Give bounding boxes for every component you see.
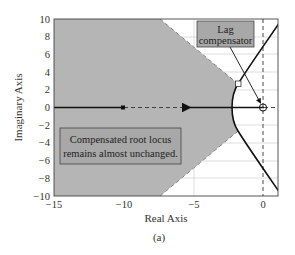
- svg-text:−6: −6: [39, 155, 50, 166]
- svg-text:0: 0: [260, 199, 265, 210]
- svg-text:2: 2: [45, 84, 50, 95]
- svg-text:−8: −8: [39, 173, 50, 184]
- y-axis-label: Imaginary Axis: [12, 73, 24, 141]
- svg-text:−5: −5: [188, 199, 199, 210]
- svg-text:Compensated root locus: Compensated root locus: [70, 134, 171, 145]
- x-axis-label: Real Axis: [144, 212, 187, 224]
- svg-text:Lag: Lag: [217, 24, 234, 35]
- y-axis-ticks: 10 8 6 4 2 0 −2 −4 −6 −8 −10: [34, 14, 51, 202]
- svg-text:−2: −2: [39, 120, 50, 131]
- root-locus-chart: Lag compensator Compensated root locus r…: [0, 0, 295, 255]
- svg-text:−15: −15: [46, 199, 62, 210]
- svg-text:−4: −4: [39, 137, 51, 148]
- svg-text:6: 6: [45, 49, 50, 60]
- compensated-locus-annotation: Compensated root locus remains almost un…: [60, 128, 181, 164]
- svg-text:remains almost unchanged.: remains almost unchanged.: [63, 148, 178, 159]
- svg-text:10: 10: [40, 14, 51, 25]
- figure-caption: (a): [153, 231, 166, 244]
- svg-text:8: 8: [45, 31, 50, 42]
- x-axis-ticks: −15 −10 −5 0: [46, 199, 266, 210]
- svg-text:−10: −10: [116, 199, 132, 210]
- closed-loop-pole-marker: [236, 81, 242, 87]
- locus-real-marker: [121, 106, 125, 110]
- svg-text:0: 0: [45, 102, 50, 113]
- svg-text:compensator: compensator: [199, 35, 253, 46]
- svg-text:4: 4: [45, 67, 51, 78]
